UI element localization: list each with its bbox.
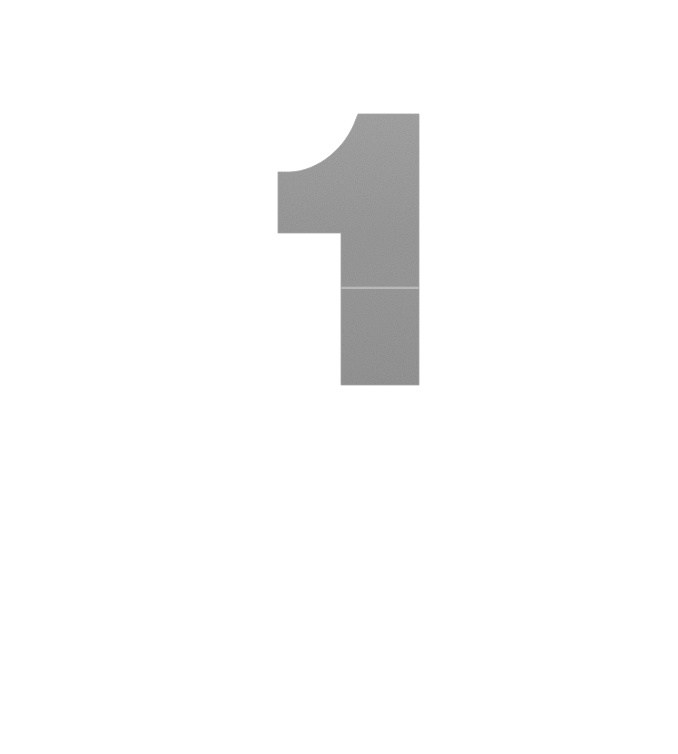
paper-seam-artifact [270, 287, 430, 289]
numeral-one-glyph [0, 0, 678, 754]
glyph-body [270, 106, 430, 396]
page-canvas [0, 0, 678, 754]
printed-plate [0, 0, 678, 754]
glyph-fill [270, 106, 430, 396]
paper-seam-shadow [270, 286, 430, 287]
